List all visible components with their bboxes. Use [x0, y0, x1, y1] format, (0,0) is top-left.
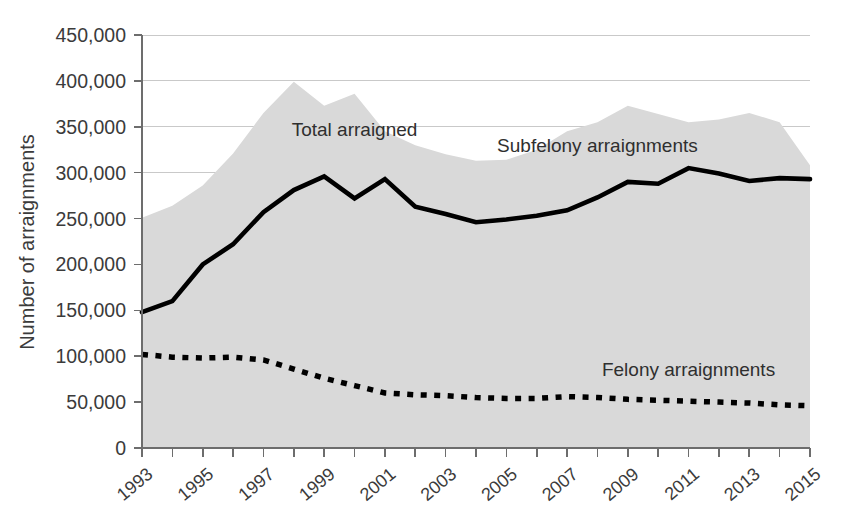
- y-tick-label: 450,000: [56, 24, 127, 46]
- y-tick-label: 300,000: [56, 162, 127, 184]
- y-axis-title: Number of arraignments: [16, 134, 38, 350]
- chart-figure: 050,000100,000150,000200,000250,000300,0…: [0, 0, 842, 524]
- total-arraigned-label: Total arraigned: [292, 119, 418, 140]
- felony-arraignments-label: Felony arraignments: [602, 359, 775, 380]
- y-tick-label: 350,000: [56, 116, 127, 138]
- y-tick-label: 50,000: [66, 391, 126, 413]
- y-tick-label: 200,000: [56, 253, 127, 275]
- y-tick-label: 400,000: [56, 70, 127, 92]
- y-tick-label: 150,000: [56, 299, 127, 321]
- y-tick-label: 0: [115, 437, 126, 459]
- y-tick-label: 250,000: [56, 208, 127, 230]
- subfelony-arraignments-label: Subfelony arraignments: [497, 135, 698, 156]
- arraignments-area-chart: 050,000100,000150,000200,000250,000300,0…: [0, 0, 842, 524]
- y-tick-label: 100,000: [56, 345, 127, 367]
